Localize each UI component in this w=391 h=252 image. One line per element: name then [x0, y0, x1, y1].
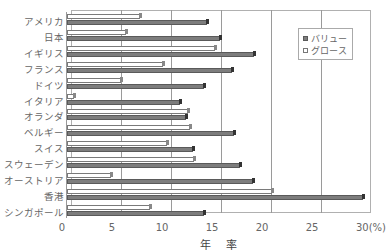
category-label: オーストリア [4, 173, 64, 187]
x-axis-label: 年 率 [200, 236, 244, 252]
category-row: シンガポール [0, 203, 391, 219]
legend-item-value: バリュー [303, 32, 348, 44]
x-tick-label: 30(%) [356, 222, 386, 233]
value-bar [67, 163, 240, 168]
category-row: オーストリア [0, 171, 391, 187]
category-label: ベルギー [24, 125, 64, 139]
x-tick-label: 20 [256, 222, 269, 233]
value-bar [67, 131, 234, 136]
value-bar [67, 84, 204, 89]
legend-label-growth: グロース [311, 44, 347, 57]
growth-bar [67, 46, 215, 51]
category-label: アメリカ [24, 14, 64, 28]
category-row: イタリア [0, 92, 391, 108]
value-bar [67, 179, 253, 184]
x-tick-label: 25 [306, 222, 319, 233]
growth-bar [67, 141, 167, 146]
x-tick-label: 0 [59, 222, 65, 233]
category-label: ドイツ [34, 78, 64, 92]
category-label: 香港 [44, 189, 64, 203]
value-bar [67, 100, 180, 105]
growth-swatch-icon [303, 48, 308, 53]
growth-bar [67, 78, 121, 83]
category-row: ドイツ [0, 76, 391, 92]
category-label: シンガポール [4, 205, 64, 219]
category-row: 香港 [0, 187, 391, 203]
legend-item-growth: グロース [303, 44, 348, 56]
category-label: オランダ [24, 109, 64, 123]
growth-bar [67, 109, 188, 114]
x-tick-label: 15 [206, 222, 219, 233]
growth-bar [67, 189, 272, 194]
value-bar [67, 195, 363, 200]
category-label: 日本 [44, 30, 64, 44]
category-row: オランダ [0, 107, 391, 123]
category-row: スイス [0, 139, 391, 155]
category-label: スウェーデン [4, 157, 64, 171]
growth-bar [67, 62, 163, 67]
growth-bar [67, 205, 150, 210]
category-row: フランス [0, 60, 391, 76]
value-swatch-icon [303, 36, 308, 41]
category-label: イギリス [24, 46, 64, 60]
x-tick-label: 5 [109, 222, 115, 233]
value-bar [67, 68, 232, 73]
growth-bar [67, 125, 190, 130]
value-bar [67, 52, 254, 57]
growth-bar [67, 173, 111, 178]
growth-bar [67, 94, 74, 99]
category-row: ベルギー [0, 123, 391, 139]
bar-chart: アメリカ日本イギリスフランスドイツイタリアオランダベルギースイススウェーデンオー… [0, 0, 391, 252]
value-bar [67, 20, 207, 25]
category-row: スウェーデン [0, 155, 391, 171]
growth-bar [67, 157, 194, 162]
category-label: イタリア [24, 94, 64, 108]
category-row: アメリカ [0, 12, 391, 28]
category-label: スイス [34, 141, 64, 155]
growth-bar [67, 14, 140, 19]
value-bar [67, 147, 193, 152]
x-tick-label: 10 [156, 222, 169, 233]
category-label: フランス [24, 62, 64, 76]
value-bar [67, 211, 204, 216]
growth-bar [67, 30, 126, 35]
value-bar [67, 115, 186, 120]
legend: バリュー グロース [298, 28, 353, 60]
value-bar [67, 36, 220, 41]
